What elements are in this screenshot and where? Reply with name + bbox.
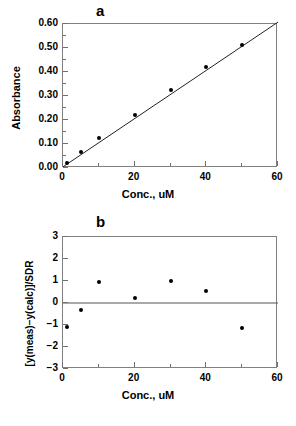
y-axis-tick	[63, 368, 68, 369]
panel-b-plot-area	[62, 236, 277, 368]
panel-b-data-layer	[63, 237, 278, 369]
figure-calibration-and-residuals: a Absorbance 0.000.100.200.300.400.500.6…	[0, 0, 296, 426]
x-axis-tick	[205, 161, 206, 166]
data-point	[204, 65, 208, 69]
y-axis-minor-tick	[63, 107, 66, 108]
x-axis-tick-label: 20	[119, 171, 149, 182]
y-axis-tick	[63, 258, 68, 259]
data-point	[169, 279, 173, 283]
panel-b-label: b	[96, 213, 105, 230]
x-axis-tick-label: 20	[119, 372, 149, 383]
x-axis-tick	[134, 362, 135, 367]
data-point	[97, 136, 101, 140]
y-axis-tick-label: 1	[14, 274, 58, 285]
panel-a-x-axis-title: Conc., uM	[0, 188, 296, 200]
x-axis-tick	[277, 362, 278, 367]
y-axis-tick	[63, 302, 68, 303]
x-axis-tick	[62, 362, 63, 367]
y-axis-tick	[63, 346, 68, 347]
data-point	[65, 161, 69, 165]
y-axis-tick	[63, 71, 68, 72]
y-axis-tick-label: −1	[14, 318, 58, 329]
y-axis-tick-label: 3	[14, 230, 58, 241]
x-axis-tick-label: 60	[262, 372, 292, 383]
y-axis-tick-label: 0	[14, 296, 58, 307]
y-axis-minor-tick	[63, 131, 66, 132]
panel-a-data-layer	[63, 24, 278, 168]
x-axis-tick	[205, 362, 206, 367]
y-axis-tick-label: 0.60	[14, 17, 58, 28]
y-axis-minor-tick	[63, 155, 66, 156]
y-axis-tick	[63, 47, 68, 48]
y-axis-minor-tick	[63, 35, 66, 36]
x-axis-minor-tick	[241, 364, 242, 367]
y-axis-tick	[63, 23, 68, 24]
x-axis-tick-label: 40	[190, 171, 220, 182]
y-axis-tick-label: −2	[14, 340, 58, 351]
y-axis-tick-label: 0.20	[14, 113, 58, 124]
data-point	[204, 289, 208, 293]
panel-a-plot-area	[62, 23, 277, 167]
data-point	[65, 325, 69, 329]
y-axis-tick	[63, 236, 68, 237]
y-axis-minor-tick	[63, 83, 66, 84]
x-axis-tick-label: 40	[190, 372, 220, 383]
y-axis-tick	[63, 95, 68, 96]
y-axis-tick-label: 0.40	[14, 65, 58, 76]
y-axis-tick-label: 0.10	[14, 137, 58, 148]
x-axis-tick	[62, 161, 63, 166]
x-axis-minor-tick	[170, 163, 171, 166]
x-axis-minor-tick	[98, 364, 99, 367]
data-point	[97, 280, 101, 284]
data-point	[133, 296, 137, 300]
data-point	[79, 150, 83, 154]
data-point	[169, 88, 173, 92]
x-axis-tick	[277, 161, 278, 166]
data-point	[133, 113, 137, 117]
regression-fit-line	[63, 22, 278, 167]
panel-b: b [y(meas)−y(calc)]/SDR −3−2−10123 02040…	[0, 213, 296, 426]
x-axis-minor-tick	[170, 364, 171, 367]
y-axis-minor-tick	[63, 59, 66, 60]
y-axis-tick-label: 0.30	[14, 89, 58, 100]
panel-a-label: a	[96, 2, 104, 19]
y-axis-tick-label: 0.50	[14, 41, 58, 52]
panel-b-x-axis-title: Conc., uM	[0, 389, 296, 401]
y-axis-tick-label: 2	[14, 252, 58, 263]
panel-a: a Absorbance 0.000.100.200.300.400.500.6…	[0, 0, 296, 213]
data-point	[240, 43, 244, 47]
y-axis-tick	[63, 324, 68, 325]
y-axis-tick	[63, 167, 68, 168]
y-axis-tick	[63, 119, 68, 120]
x-axis-tick-label: 60	[262, 171, 292, 182]
x-axis-tick-label: 0	[47, 372, 77, 383]
data-point	[79, 308, 83, 312]
x-axis-tick-label: 0	[47, 171, 77, 182]
x-axis-minor-tick	[241, 163, 242, 166]
x-axis-tick	[134, 161, 135, 166]
y-axis-tick	[63, 280, 68, 281]
x-axis-minor-tick	[98, 163, 99, 166]
y-axis-tick	[63, 143, 68, 144]
data-point	[240, 326, 244, 330]
